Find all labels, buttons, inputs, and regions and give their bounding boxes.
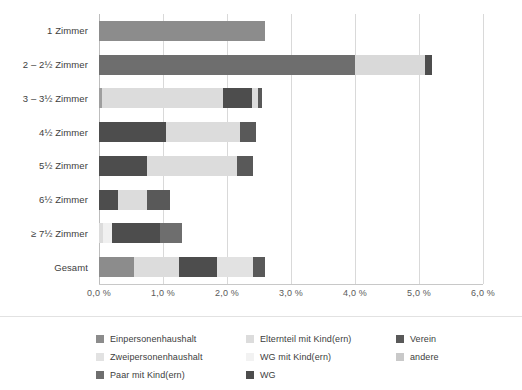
bar-track bbox=[99, 190, 483, 210]
y-axis-label: 2 – 2½ Zimmer bbox=[2, 59, 88, 70]
bar-segment bbox=[112, 223, 160, 243]
y-axis-label: 4½ Zimmer bbox=[2, 127, 88, 138]
legend-label: Einpersonenhaushalt bbox=[110, 334, 196, 344]
legend-label: andere bbox=[410, 352, 439, 362]
bar-segment bbox=[179, 257, 217, 277]
bar-segment bbox=[99, 257, 134, 277]
x-axis-tick-label: 2,0 % bbox=[215, 288, 239, 298]
legend-item[interactable]: Paar mit Kind(ern) bbox=[96, 366, 246, 384]
legend-item[interactable]: WG bbox=[246, 366, 381, 384]
legend-label: Elternteil mit Kind(ern) bbox=[260, 334, 351, 344]
legend-item[interactable]: Zweipersonenhaushalt bbox=[96, 348, 246, 366]
bar-row bbox=[99, 88, 483, 108]
plot-area bbox=[99, 14, 483, 284]
legend-item[interactable]: WG mit Kind(ern) bbox=[246, 348, 381, 366]
legend-label: Verein bbox=[410, 334, 436, 344]
legend-swatch-icon bbox=[396, 335, 404, 343]
y-axis-label: ≥ 7½ Zimmer bbox=[2, 228, 88, 239]
bar-segment bbox=[258, 88, 262, 108]
x-axis-tick-labels: 0,0 %1,0 %2,0 %3,0 %4,0 %5,0 %6,0 % bbox=[99, 288, 483, 302]
legend-swatch-icon bbox=[396, 353, 404, 361]
bar-segment bbox=[240, 122, 256, 142]
bar-segment bbox=[102, 88, 222, 108]
legend-swatch-icon bbox=[246, 353, 254, 361]
legend-label: Paar mit Kind(ern) bbox=[110, 370, 185, 380]
bar-row bbox=[99, 122, 483, 142]
x-axis-tick-label: 3,0 % bbox=[279, 288, 303, 298]
bar-segment bbox=[425, 55, 431, 75]
x-axis-line bbox=[99, 284, 483, 285]
legend-item[interactable]: Einpersonenhaushalt bbox=[96, 330, 246, 348]
legend-label: WG bbox=[260, 370, 276, 380]
legend-item[interactable]: Verein bbox=[396, 330, 516, 348]
bar-row bbox=[99, 223, 483, 243]
bar-row bbox=[99, 190, 483, 210]
bar-row bbox=[99, 21, 483, 41]
bar-segment bbox=[134, 257, 179, 277]
legend-swatch-icon bbox=[96, 353, 104, 361]
bar-segment bbox=[355, 55, 425, 75]
bar-segment bbox=[103, 223, 111, 243]
legend-swatch-icon bbox=[246, 371, 254, 379]
x-axis-tick-label: 6,0 % bbox=[471, 288, 495, 298]
bar-segment bbox=[147, 156, 237, 176]
bar-row bbox=[99, 156, 483, 176]
x-axis-tick-label: 4,0 % bbox=[343, 288, 367, 298]
y-axis-label: 1 Zimmer bbox=[2, 25, 88, 36]
legend-column: Vereinandere bbox=[396, 330, 516, 366]
legend-swatch-icon bbox=[96, 335, 104, 343]
legend-label: Zweipersonenhaushalt bbox=[110, 352, 203, 362]
y-axis-labels: 1 Zimmer2 – 2½ Zimmer3 – 3½ Zimmer4½ Zim… bbox=[0, 14, 88, 284]
legend-item[interactable]: Elternteil mit Kind(ern) bbox=[246, 330, 381, 348]
legend-swatch-icon bbox=[96, 371, 104, 379]
bar-track bbox=[99, 55, 483, 75]
bar-track bbox=[99, 156, 483, 176]
y-axis-label: 5½ Zimmer bbox=[2, 160, 88, 171]
legend-column: EinpersonenhaushaltZweipersonenhaushaltP… bbox=[96, 330, 246, 384]
bar-segment bbox=[147, 190, 170, 210]
y-axis-label: 6½ Zimmer bbox=[2, 194, 88, 205]
bar-segment bbox=[99, 156, 147, 176]
bar-track bbox=[99, 223, 483, 243]
bar-track bbox=[99, 88, 483, 108]
gridline-60 bbox=[483, 14, 484, 284]
legend-swatch-icon bbox=[246, 335, 254, 343]
bar-segment bbox=[253, 257, 266, 277]
legend-item[interactable]: andere bbox=[396, 348, 516, 366]
legend-column: Elternteil mit Kind(ern)WG mit Kind(ern)… bbox=[246, 330, 381, 384]
y-axis-label: 3 – 3½ Zimmer bbox=[2, 93, 88, 104]
bar-segment bbox=[217, 257, 252, 277]
bar-segment bbox=[166, 122, 240, 142]
legend-label: WG mit Kind(ern) bbox=[260, 352, 331, 362]
x-axis-tick-label: 0,0 % bbox=[87, 288, 111, 298]
bar-segment bbox=[99, 55, 355, 75]
stacked-bar-chart: 1 Zimmer2 – 2½ Zimmer3 – 3½ Zimmer4½ Zim… bbox=[0, 0, 522, 390]
bar-segment bbox=[99, 190, 118, 210]
bar-segment bbox=[99, 21, 265, 41]
bar-segment bbox=[99, 122, 166, 142]
bar-segment bbox=[223, 88, 252, 108]
legend-divider bbox=[0, 316, 522, 317]
bar-track bbox=[99, 122, 483, 142]
bar-track bbox=[99, 21, 483, 41]
bar-track bbox=[99, 257, 483, 277]
bar-segment bbox=[160, 223, 182, 243]
bar-segment bbox=[237, 156, 253, 176]
x-axis-tick-label: 1,0 % bbox=[151, 288, 175, 298]
bar-row bbox=[99, 257, 483, 277]
bar-row bbox=[99, 55, 483, 75]
chart-legend: EinpersonenhaushaltZweipersonenhaushaltP… bbox=[96, 330, 516, 386]
bar-segment bbox=[118, 190, 147, 210]
x-axis-tick-label: 5,0 % bbox=[407, 288, 431, 298]
y-axis-label: Gesamt bbox=[2, 262, 88, 273]
